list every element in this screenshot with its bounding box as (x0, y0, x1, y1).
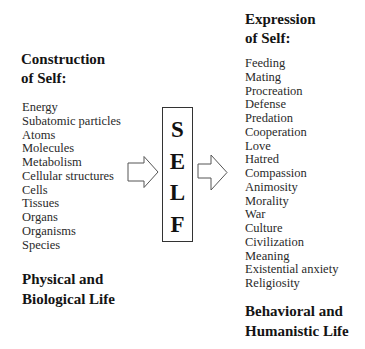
physical-biological-life-label: Physical and Biological Life (22, 270, 115, 309)
list-item: Hatred (245, 153, 338, 167)
list-item: Defense (245, 98, 338, 112)
left-arrow-icon (127, 155, 159, 189)
list-item: Organs (22, 211, 121, 225)
list-item: Love (245, 140, 338, 154)
list-item: Civilization (245, 236, 338, 250)
list-item: Animosity (245, 181, 338, 195)
construction-list: Energy Subatomic particles Atoms Molecul… (22, 101, 121, 252)
list-item: Predation (245, 112, 338, 126)
list-item: Feeding (245, 57, 338, 71)
list-item: Meaning (245, 250, 338, 264)
self-box: S E L F (162, 107, 193, 242)
list-item: Morality (245, 195, 338, 209)
list-item: Religiosity (245, 277, 338, 291)
list-item: Molecules (22, 142, 121, 156)
self-letter-e: E (163, 150, 192, 174)
list-item: Subatomic particles (22, 115, 121, 129)
behavioral-humanistic-life-label: Behavioral and Humanistic Life (245, 302, 349, 341)
list-item: Organisms (22, 225, 121, 239)
list-item: Procreation (245, 85, 338, 99)
list-item: Mating (245, 71, 338, 85)
list-item: Tissues (22, 197, 121, 211)
self-letter-f: F (163, 213, 192, 237)
self-letter-l: L (163, 181, 192, 205)
list-item: War (245, 208, 338, 222)
list-item: Compassion (245, 167, 338, 181)
construction-of-self-heading: Construction of Self: (21, 50, 105, 88)
list-item: Species (22, 239, 121, 253)
list-item: Metabolism (22, 156, 121, 170)
list-item: Cells (22, 184, 121, 198)
expression-of-self-heading: Expression of Self: (245, 10, 316, 48)
footer-line: Physical and (22, 270, 115, 290)
list-item: Cooperation (245, 126, 338, 140)
footer-line: Biological Life (22, 290, 115, 310)
list-item: Energy (22, 101, 121, 115)
heading-line: Construction (21, 50, 105, 69)
expression-list: Feeding Mating Procreation Defense Preda… (245, 57, 338, 291)
list-item: Cellular structures (22, 170, 121, 184)
right-arrow-icon (197, 154, 229, 192)
footer-line: Behavioral and (245, 302, 349, 322)
self-letter-s: S (163, 118, 192, 142)
list-item: Atoms (22, 129, 121, 143)
heading-line: Expression (245, 10, 316, 29)
heading-line: of Self: (245, 29, 316, 48)
footer-line: Humanistic Life (245, 322, 349, 342)
list-item: Culture (245, 222, 338, 236)
heading-line: of Self: (21, 69, 105, 88)
list-item: Existential anxiety (245, 263, 338, 277)
